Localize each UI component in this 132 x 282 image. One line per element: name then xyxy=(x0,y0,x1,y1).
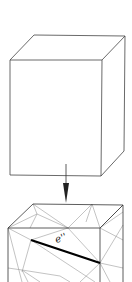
mesh-lines xyxy=(8,204,123,282)
plain-cube xyxy=(10,35,125,176)
edge-label: e'' xyxy=(53,231,67,245)
cube-top-face xyxy=(10,35,125,60)
meshed-cube: e'' xyxy=(8,204,123,282)
diagram-canvas: e'' xyxy=(0,0,132,282)
meshed-cube-top-face xyxy=(8,204,123,228)
down-arrow-icon xyxy=(63,164,69,203)
cube-front-face xyxy=(10,60,102,176)
